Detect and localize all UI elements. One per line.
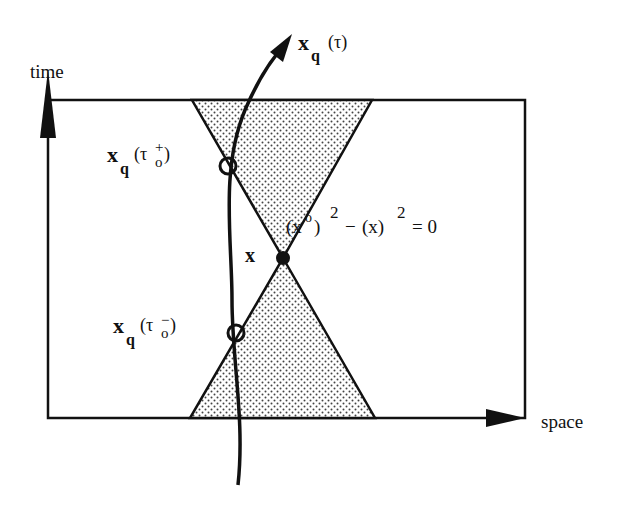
svg-text:(τ: (τ bbox=[140, 315, 153, 336]
spacetime-diagram: time space x q (τ) x q (τ o + ) x q (τ o… bbox=[0, 0, 627, 506]
event-point-label: x bbox=[245, 244, 255, 266]
svg-text:−: − bbox=[345, 216, 356, 237]
future-intersection-label: x q (τ o + ) bbox=[107, 139, 170, 178]
svg-text:o: o bbox=[305, 210, 312, 225]
svg-text:−: − bbox=[161, 312, 169, 328]
svg-text:(x): (x) bbox=[362, 216, 384, 238]
svg-text:q: q bbox=[311, 47, 320, 65]
svg-text:q: q bbox=[120, 160, 129, 178]
svg-text:(τ: (τ bbox=[134, 144, 147, 165]
space-axis-label: space bbox=[541, 411, 583, 432]
svg-text:2: 2 bbox=[397, 203, 406, 222]
svg-text:q: q bbox=[126, 331, 135, 349]
svg-text:): ) bbox=[170, 315, 176, 336]
svg-text:(x: (x bbox=[286, 216, 302, 238]
svg-text:): ) bbox=[164, 144, 170, 165]
past-light-cone bbox=[190, 258, 375, 418]
space-axis-arrow bbox=[486, 409, 525, 427]
event-point-dot bbox=[276, 251, 290, 265]
svg-text:o: o bbox=[155, 154, 163, 170]
svg-text:+: + bbox=[155, 139, 163, 155]
svg-text:2: 2 bbox=[330, 203, 339, 222]
svg-text:x: x bbox=[298, 30, 309, 55]
svg-text:= 0: = 0 bbox=[412, 216, 437, 237]
worldline-label: x q (τ) bbox=[298, 30, 347, 65]
svg-text:): ) bbox=[314, 216, 320, 238]
past-intersection-label: x q (τ o − ) bbox=[113, 312, 176, 349]
time-axis-label: time bbox=[30, 61, 64, 82]
svg-text:x: x bbox=[113, 313, 124, 338]
svg-text:(τ): (τ) bbox=[328, 32, 347, 53]
svg-text:x: x bbox=[107, 142, 118, 167]
